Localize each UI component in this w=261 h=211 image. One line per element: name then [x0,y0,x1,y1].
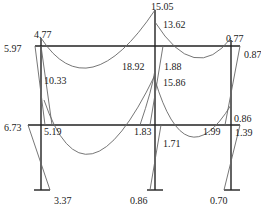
moment-label-0-70: 0.70 [210,196,228,206]
moment-label-0-86-base: 0.86 [130,196,148,206]
moment-label-6-73: 6.73 [4,123,22,133]
moment-label-18-92: 18.92 [122,62,145,72]
moment-label-1-99: 1.99 [203,127,221,137]
moment-label-13-62: 13.62 [163,20,186,30]
moment-lower-left-span [44,75,155,154]
moment-label-1-83: 1.83 [134,127,152,137]
moment-label-1-39: 1.39 [235,128,253,138]
moment-label-10-33: 10.33 [44,76,67,86]
moment-label-0-87: 0.87 [244,50,261,60]
moment-curves [28,10,240,190]
moment-label-0-86-right: 0.86 [234,114,252,124]
moment-label-5-97: 5.97 [4,44,22,54]
moment-label-3-37: 3.37 [54,196,72,206]
moment-label-1-88: 1.88 [164,62,182,72]
moment-label-15-86: 15.86 [163,78,186,88]
moment-label-1-71: 1.71 [163,139,181,149]
moment-top-left-span [41,10,155,68]
moment-mid-col-upper-b [140,70,155,125]
moment-label-15-05: 15.05 [151,2,174,12]
moment-label-0-77: 0.77 [226,34,244,44]
moment-label-4-77: 4.77 [34,30,52,40]
moment-label-5-19: 5.19 [44,127,62,137]
